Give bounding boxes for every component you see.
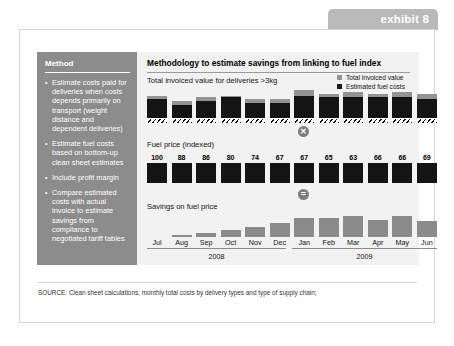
axis-month-label: Jun: [417, 238, 437, 247]
savings-bar: [417, 212, 437, 237]
fuel-price-bar: 66: [392, 152, 412, 183]
fuel-price-bar-fill: [417, 163, 437, 183]
content-card: Method •Estimate costs paid for deliveri…: [37, 52, 419, 265]
fuel-price-bar-fill: [270, 163, 290, 183]
stacked-bar: [270, 90, 290, 123]
section-label-fuel-price: Fuel price (indexed): [147, 140, 214, 149]
savings-bar: [319, 212, 339, 237]
fuel-price-value-label: 63: [349, 154, 357, 162]
fuel-price-value-label: 86: [202, 154, 210, 162]
bar-hatch-base: [245, 118, 265, 123]
fuel-price-bar-fill: [172, 163, 192, 183]
method-list-item: •Include profit margin: [45, 173, 130, 182]
fuel-price-bar: 67: [270, 152, 290, 183]
fuel-price-bar-fill: [147, 163, 167, 183]
savings-bar-fill: [172, 235, 192, 237]
bar-segment-estimated-fuel-cost: [270, 103, 290, 118]
legend-item-label: Total invoiced value: [346, 74, 404, 81]
section-label-total-invoiced: Total invoiced value for deliveries >3kg: [147, 76, 277, 85]
fuel-price-value-label: 69: [423, 154, 431, 162]
axis-month-label: Feb: [319, 238, 339, 247]
fuel-price-value-label: 74: [251, 154, 259, 162]
bar-segment-estimated-fuel-cost: [368, 97, 388, 118]
savings-bar-fill: [196, 233, 216, 237]
method-list-item-label: Include profit margin: [52, 173, 130, 182]
axis-month-labels: JulAugSepOctNovDecJanFebMarAprMayJun: [147, 238, 437, 247]
equals-operator-icon: =: [298, 189, 309, 200]
fuel-price-bar-fill: [343, 163, 363, 183]
stacked-bar: [245, 90, 265, 123]
savings-bar: [196, 212, 216, 237]
fuel-price-value-label: 88: [178, 154, 186, 162]
bullet-icon: •: [45, 188, 52, 243]
savings-bar: [147, 212, 167, 237]
bar-segment-estimated-fuel-cost: [221, 97, 241, 118]
source-divider: [37, 282, 417, 283]
axis-year-label: 2008: [147, 248, 286, 261]
legend-swatch-icon: [337, 84, 342, 89]
bullet-icon: •: [45, 173, 52, 182]
bar-hatch-base: [417, 118, 437, 123]
stacked-bar: [196, 90, 216, 123]
bullet-icon: •: [45, 78, 52, 133]
fuel-price-value-label: 80: [227, 154, 235, 162]
fuel-price-bar: 88: [172, 152, 192, 183]
fuel-price-bar-fill: [392, 163, 412, 183]
axis-month-label: May: [392, 238, 412, 247]
fuel-price-value-label: 100: [151, 154, 163, 162]
legend-item: Estimated fuel costs: [337, 83, 405, 90]
savings-bar: [245, 212, 265, 237]
bar-segment-estimated-fuel-cost: [417, 99, 437, 118]
savings-bar-fill: [319, 218, 339, 237]
fuel-price-bar: 66: [368, 152, 388, 183]
bar-hatch-base: [147, 118, 167, 123]
legend-swatch-icon: [337, 75, 342, 80]
bar-segment-estimated-fuel-cost: [392, 97, 412, 118]
axis-month-label: Oct: [221, 238, 241, 247]
source-note: SOURCE: Clean sheet calculations, monthl…: [38, 289, 317, 296]
axis-year-label: 2009: [292, 248, 437, 261]
fuel-price-bar-fill: [245, 163, 265, 183]
axis-year-labels: 20082009: [147, 248, 437, 261]
legend-item: Total invoiced value: [337, 74, 405, 81]
stacked-bar: [417, 90, 437, 123]
fuel-price-bar: 65: [319, 152, 339, 183]
bar-hatch-base: [172, 118, 192, 123]
savings-bar: [221, 212, 241, 237]
bar-hatch-base: [294, 118, 314, 123]
fuel-price-bar: 69: [417, 152, 437, 183]
savings-bar-fill: [368, 220, 388, 237]
slide-frame: Method •Estimate costs paid for deliveri…: [19, 29, 435, 323]
bar-hatch-base: [196, 118, 216, 123]
chart-panel: Methodology to estimate savings from lin…: [137, 52, 419, 265]
bar-segment-estimated-fuel-cost: [196, 101, 216, 118]
savings-bar-fill: [417, 221, 437, 237]
savings-bar-fill: [221, 230, 241, 237]
savings-bar-fill: [392, 216, 412, 237]
axis-month-label: Jul: [147, 238, 167, 247]
stacked-bar: [319, 90, 339, 123]
bar-hatch-base: [392, 118, 412, 123]
fuel-price-bar: 67: [294, 152, 314, 183]
chart-total-invoiced-value: [147, 90, 437, 123]
method-list-item: •Compare estimated costs with actual inv…: [45, 188, 130, 243]
fuel-price-bar: 100: [147, 152, 167, 183]
method-list-item: •Estimate fuel costs based on bottom-up …: [45, 139, 130, 167]
stacked-bar: [172, 90, 192, 123]
fuel-price-value-label: 67: [300, 154, 308, 162]
method-panel-title: Method: [45, 59, 130, 73]
savings-bar-fill: [245, 227, 265, 237]
savings-bar: [368, 212, 388, 237]
method-list-item: •Estimate costs paid for deliveries when…: [45, 78, 130, 133]
savings-bar: [343, 212, 363, 237]
fuel-price-value-label: 65: [325, 154, 333, 162]
method-panel: Method •Estimate costs paid for deliveri…: [37, 52, 137, 265]
fuel-price-bar: 74: [245, 152, 265, 183]
chart-fuel-price-indexed: 1008886807467676563666669: [147, 152, 437, 183]
savings-bar-fill: [294, 218, 314, 237]
axis-month-label: Apr: [368, 238, 388, 247]
stacked-bar: [294, 90, 314, 123]
savings-bar: [392, 212, 412, 237]
fuel-price-value-label: 66: [398, 154, 406, 162]
stacked-bar: [392, 90, 412, 123]
